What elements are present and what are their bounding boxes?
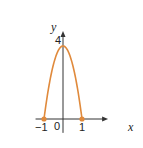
x-tick-label-1: 1 (79, 121, 85, 133)
y-tick-label-4: 4 (55, 34, 61, 46)
x-tick-label-neg1: −1 (35, 121, 48, 133)
x-axis-arrow-icon (102, 117, 108, 122)
y-axis-arrow-icon (61, 31, 66, 37)
parabola-chart: y x 4 −1 0 1 (0, 0, 143, 148)
axes (36, 31, 109, 133)
y-axis-label: y (50, 20, 57, 34)
x-tick-label-0: 0 (54, 120, 60, 132)
x-axis-label: x (127, 120, 134, 134)
